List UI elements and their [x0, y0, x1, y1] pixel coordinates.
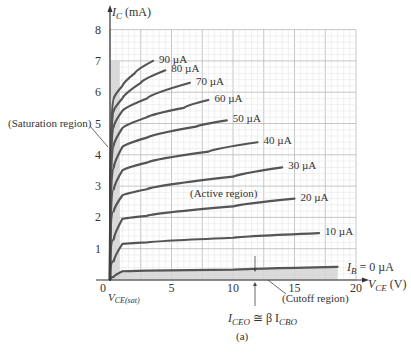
x-tick-label: 5 [169, 281, 175, 295]
active-region-label: (Active region) [190, 187, 258, 200]
y-tick-label: 3 [95, 179, 101, 193]
saturation-region-label: (Saturation region) [8, 117, 92, 130]
ib-curve-5 [110, 120, 227, 280]
y-tick-label: 6 [95, 85, 101, 99]
curve-label: 60 µA [214, 92, 242, 104]
figure-caption: (a) [236, 330, 249, 343]
axes [96, 5, 369, 283]
cutoff-leader-line [268, 280, 286, 294]
curve-label: 30 µA [288, 159, 316, 171]
y-tick-label: 4 [95, 148, 101, 162]
y-tick-label: 2 [95, 210, 101, 224]
curve-label: 90 µA [159, 53, 187, 65]
curve-label: 70 µA [196, 75, 224, 87]
x-axis-label: VCE (V) [368, 277, 407, 293]
curve-label: 10 µA [325, 225, 353, 237]
ib-curve-7 [110, 83, 190, 280]
origin-label: 0 [100, 281, 106, 295]
bjt-output-characteristics-chart: 510152012345678 IC (mA) VCE (V) 0 VCE(sa… [0, 0, 411, 354]
iceo-label: ICEO ≅ β ICBO [227, 311, 298, 327]
y-tick-label: 7 [95, 54, 101, 68]
x-tick-label: 20 [350, 281, 362, 295]
curve-label: 50 µA [233, 112, 261, 124]
cutoff-region-label: (Cutoff region) [282, 292, 349, 305]
curve-label: 40 µA [264, 134, 292, 146]
vce-sat-label: VCE(sat) [108, 291, 140, 305]
x-tick-label: 10 [227, 281, 239, 295]
y-tick-label: 5 [95, 117, 101, 131]
y-axis-label: IC (mA) [111, 5, 151, 21]
curve-label: 20 µA [301, 191, 329, 203]
y-tick-label: 8 [95, 23, 101, 37]
y-tick-label: 1 [95, 242, 101, 256]
ib-zero-label: IB = 0 µA [346, 260, 394, 276]
iceo-arrowhead-bottom-icon [253, 282, 257, 286]
tick-labels: 510152012345678 [95, 23, 362, 295]
